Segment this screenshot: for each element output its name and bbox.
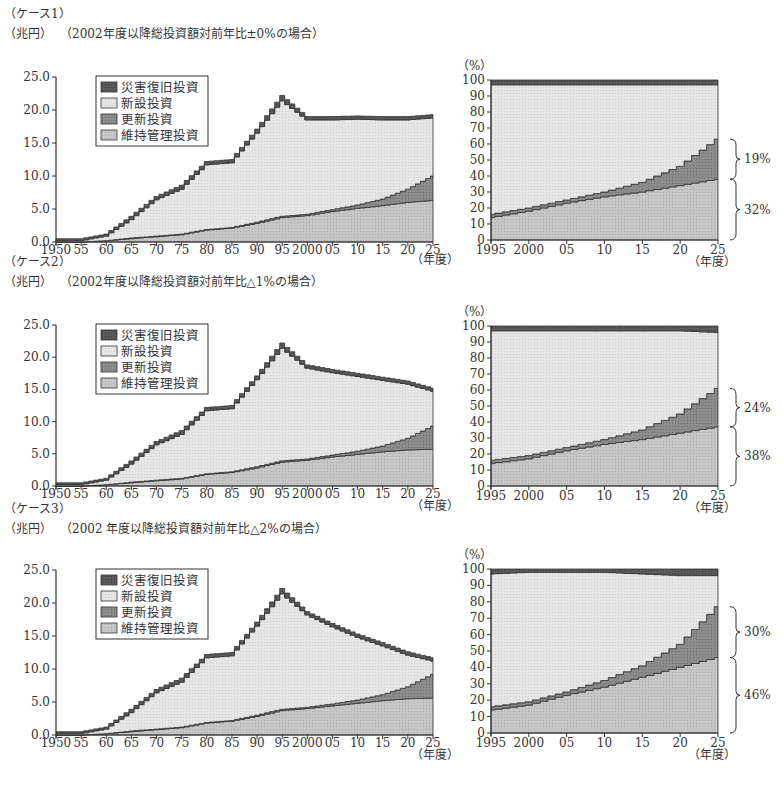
x-tick-label: 80 — [199, 487, 214, 501]
share-chart-1: 0102030405060708090100199520000510152025… — [457, 59, 771, 269]
x-tick-label: 20 — [673, 243, 688, 257]
x-tick-label: 15 — [635, 489, 650, 503]
percent-unit-label: （%） — [457, 305, 492, 319]
y-tick-label: 5.0 — [31, 202, 50, 216]
x-unit-label: （年度） — [411, 498, 459, 513]
case-label: （ケース2） — [4, 255, 71, 269]
x-tick-label: 10 — [350, 243, 365, 257]
y-tick-label: 20 — [470, 201, 485, 215]
y-tick-label: 60 — [470, 628, 485, 642]
x-tick-label: 15 — [375, 243, 390, 257]
x-tick-label: 95 — [275, 243, 290, 257]
brace-icon — [730, 179, 740, 240]
y-tick-label: 10 — [470, 463, 485, 477]
amount-chart-2: 0.05.010.015.020.025.0195055606570758085… — [4, 255, 459, 513]
case-subtitle: （2002年度以降総投資額対前年比±0%の場合） — [60, 26, 324, 41]
x-tick-label: 1950 — [41, 736, 72, 750]
x-unit-label: （年度） — [688, 500, 736, 515]
y-tick-label: 15.0 — [23, 629, 50, 643]
x-tick-label: 60 — [99, 487, 114, 501]
figure-canvas: 0.05.010.015.020.025.0195055606570758085… — [0, 0, 783, 800]
y-tick-label: 30 — [470, 431, 485, 445]
brace-icon — [730, 139, 740, 179]
case-label: （ケース3） — [4, 502, 71, 516]
legend-swatch — [101, 575, 117, 585]
y-tick-label: 90 — [470, 335, 485, 349]
y-tick-label: 10.0 — [23, 415, 50, 429]
y-tick-label: 5.0 — [31, 695, 50, 709]
legend: 災害復旧投資新設投資更新投資維持管理投資 — [96, 76, 208, 146]
x-tick-label: 90 — [249, 487, 264, 501]
x-tick-label: 10 — [597, 243, 612, 257]
y-tick-label: 10.0 — [23, 169, 50, 183]
y-tick-label: 30 — [470, 677, 485, 691]
x-tick-label: 65 — [124, 487, 139, 501]
y-tick-label: 15.0 — [23, 136, 50, 150]
x-tick-label: 2000 — [292, 243, 323, 257]
y-tick-label: 5.0 — [31, 447, 50, 461]
brace-icon — [730, 658, 740, 733]
case-subtitle: （2002 年度以降総投資額対前年比△2%の場合） — [60, 521, 327, 536]
legend-label: 更新投資 — [121, 112, 173, 127]
legend: 災害復旧投資新設投資更新投資維持管理投資 — [96, 324, 208, 394]
bracket-label: 38% — [744, 449, 771, 463]
x-tick-label: 85 — [224, 736, 239, 750]
x-tick-label: 55 — [73, 243, 88, 257]
x-tick-label: 15 — [375, 736, 390, 750]
x-tick-label: 10 — [350, 487, 365, 501]
y-tick-label: 15.0 — [23, 382, 50, 396]
x-tick-label: 65 — [124, 243, 139, 257]
legend-label: 更新投資 — [121, 360, 173, 375]
share-chart-3: 0102030405060708090100199520000510152025… — [457, 548, 771, 762]
legend-label: 新設投資 — [121, 96, 173, 111]
x-tick-label: 60 — [99, 243, 114, 257]
case-subtitle: （2002年度以降総投資額対前年比△1%の場合） — [60, 274, 323, 289]
x-tick-label: 1995 — [476, 243, 507, 257]
x-tick-label: 75 — [174, 487, 189, 501]
legend-swatch — [101, 130, 117, 140]
legend-swatch — [101, 346, 117, 356]
y-tick-label: 50 — [470, 153, 485, 167]
y-tick-label: 80 — [470, 351, 485, 365]
x-tick-label: 2000 — [514, 489, 545, 503]
bracket-label: 46% — [744, 688, 771, 702]
y-tick-label: 50 — [470, 644, 485, 658]
x-tick-label: 75 — [174, 243, 189, 257]
case-label: （ケース1） — [4, 7, 71, 21]
x-tick-label: 20 — [673, 489, 688, 503]
legend-swatch — [101, 114, 117, 124]
bracket-label: 30% — [744, 625, 771, 639]
x-tick-label: 15 — [635, 736, 650, 750]
legend-label: 維持管理投資 — [121, 128, 199, 143]
amount-unit-label: （兆円） — [4, 27, 52, 41]
y-tick-label: 10 — [470, 217, 485, 231]
legend-swatch — [101, 591, 117, 601]
y-tick-label: 100 — [462, 562, 485, 576]
x-tick-label: 2000 — [292, 487, 323, 501]
x-tick-label: 55 — [73, 736, 88, 750]
legend: 災害復旧投資新設投資更新投資維持管理投資 — [96, 569, 208, 639]
percent-unit-label: （%） — [457, 548, 492, 562]
x-tick-label: 70 — [149, 736, 164, 750]
y-tick-label: 100 — [462, 319, 485, 333]
legend-label: 新設投資 — [121, 344, 173, 359]
legend-swatch — [101, 378, 117, 388]
y-tick-label: 25.0 — [23, 563, 50, 577]
amount-unit-label: （兆円） — [4, 522, 52, 536]
legend-swatch — [101, 607, 117, 617]
y-tick-label: 20.0 — [23, 350, 50, 364]
x-tick-label: 05 — [325, 487, 340, 501]
x-tick-label: 90 — [249, 736, 264, 750]
y-tick-label: 100 — [462, 73, 485, 87]
legend-label: 災害復旧投資 — [121, 328, 199, 343]
y-tick-label: 70 — [470, 121, 485, 135]
y-tick-label: 90 — [470, 89, 485, 103]
x-tick-label: 85 — [224, 243, 239, 257]
x-tick-label: 2000 — [514, 736, 545, 750]
x-tick-label: 55 — [73, 487, 88, 501]
y-tick-label: 70 — [470, 367, 485, 381]
y-tick-label: 10 — [470, 710, 485, 724]
legend-label: 維持管理投資 — [121, 621, 199, 636]
x-tick-label: 1995 — [476, 489, 507, 503]
x-tick-label: 65 — [124, 736, 139, 750]
